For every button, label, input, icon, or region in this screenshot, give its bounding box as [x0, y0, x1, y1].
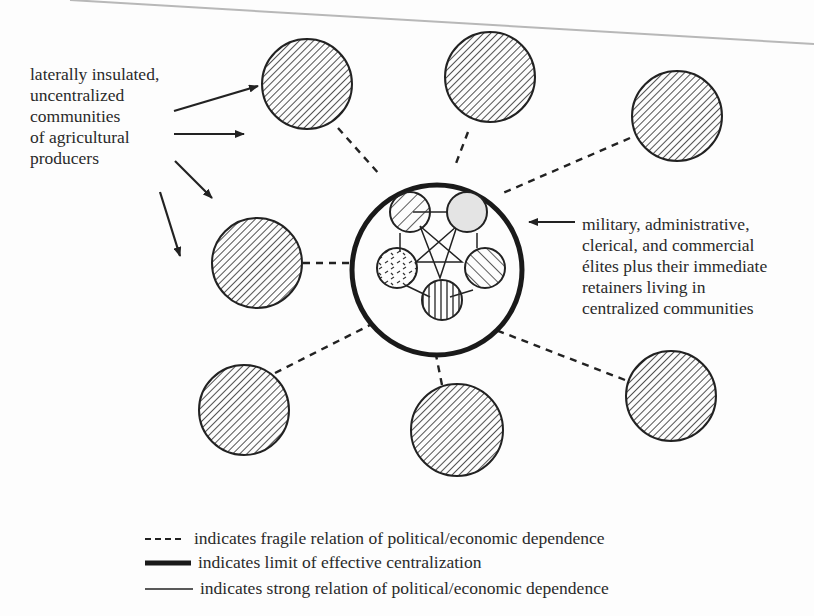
community-node — [632, 71, 722, 161]
community-node — [212, 218, 302, 308]
legend-fragile-relation: indicates fragile relation of political/… — [194, 528, 605, 549]
label-line: retainers living in — [582, 277, 767, 298]
label-line: producers — [30, 148, 159, 169]
arrow-icon — [175, 161, 212, 198]
page-edge-line — [70, 0, 814, 44]
label-line: of agricultural — [30, 127, 159, 148]
arrow-icon — [174, 86, 258, 111]
label-line: élites plus their immediate — [582, 256, 767, 277]
legend-strong-relation: indicates strong relation of political/e… — [200, 578, 609, 599]
community-node — [411, 384, 503, 476]
community-node — [626, 351, 716, 441]
military-elite-node — [390, 192, 430, 232]
legend-centralization-limit: indicates limit of effective centralizat… — [198, 552, 481, 573]
label-line: clerical, and commercial — [582, 235, 767, 256]
label-line: uncentralized — [30, 85, 159, 106]
label-line: laterally insulated, — [30, 64, 159, 85]
clerical-elite-node — [377, 248, 417, 288]
community-node — [262, 39, 352, 129]
retainers-node — [422, 280, 462, 320]
administrative-elite-node — [447, 192, 487, 232]
community-node — [199, 365, 289, 455]
label-line: military, administrative, — [582, 214, 767, 235]
label-line: centralized communities — [582, 298, 767, 319]
arrow-icon — [160, 192, 180, 256]
community-node — [445, 32, 535, 122]
label-line: communities — [30, 106, 159, 127]
elites-label: military, administrative, clerical, and … — [582, 214, 767, 319]
agricultural-communities-label: laterally insulated, uncentralized commu… — [30, 64, 159, 169]
commercial-elite-node — [465, 248, 505, 288]
